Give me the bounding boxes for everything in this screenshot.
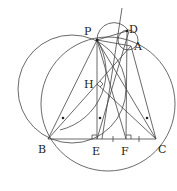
label-D: D	[129, 23, 138, 36]
angle-dot-E	[99, 117, 102, 120]
label-H: H	[84, 78, 94, 91]
label-B: B	[38, 143, 46, 156]
circumcircle-big	[41, 37, 175, 171]
line-D-ext	[102, 8, 122, 139]
line-BA	[48, 46, 131, 139]
arc-inner	[60, 40, 106, 130]
angle-dot-B	[62, 117, 65, 120]
right-angle-H	[100, 81, 103, 87]
geometry-diagram: P D A H B E F C	[0, 0, 177, 191]
label-C: C	[158, 143, 166, 156]
line-AC	[131, 46, 156, 139]
label-E: E	[92, 145, 100, 158]
label-A: A	[133, 40, 143, 53]
label-F: F	[121, 145, 129, 158]
angle-dot-C	[146, 117, 149, 120]
point-P	[96, 39, 99, 42]
label-P: P	[84, 25, 92, 38]
right-angle-F	[126, 135, 131, 139]
line-DF	[126, 31, 127, 139]
point-D	[126, 30, 128, 32]
